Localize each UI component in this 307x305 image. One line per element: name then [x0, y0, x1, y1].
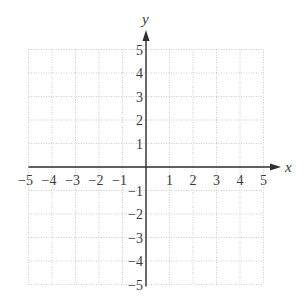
coordinate-plane: −5−4−3−2−112345 −5−4−3−2−112345 x y — [0, 0, 307, 305]
x-tick-label: 3 — [213, 173, 220, 188]
y-tick-label: −4 — [128, 254, 143, 269]
x-tick-label: −4 — [42, 173, 57, 188]
y-axis-label: y — [140, 11, 149, 27]
x-axis-label: x — [284, 159, 292, 175]
y-tick-label: 1 — [136, 137, 143, 152]
y-tick-label: 4 — [136, 66, 143, 81]
x-tick-label: −1 — [112, 173, 127, 188]
x-axis-arrow-icon — [270, 164, 281, 171]
y-tick-label: −3 — [128, 231, 143, 246]
y-axis-arrow-icon — [143, 30, 150, 41]
x-tick-label: 4 — [237, 173, 244, 188]
x-tick-label: −3 — [65, 173, 80, 188]
y-tick-label: −2 — [128, 207, 143, 222]
x-tick-label: −5 — [18, 173, 33, 188]
y-tick-label: 5 — [136, 43, 143, 58]
y-tick-label: 3 — [136, 90, 143, 105]
y-tick-label: 2 — [136, 113, 143, 128]
x-tick-label: 2 — [190, 173, 197, 188]
x-tick-label: 1 — [166, 173, 173, 188]
y-tick-label: −5 — [128, 278, 143, 293]
x-tick-label: −2 — [89, 173, 104, 188]
x-tick-label: 5 — [260, 173, 267, 188]
y-tick-label: −1 — [128, 184, 143, 199]
axes — [29, 30, 282, 287]
